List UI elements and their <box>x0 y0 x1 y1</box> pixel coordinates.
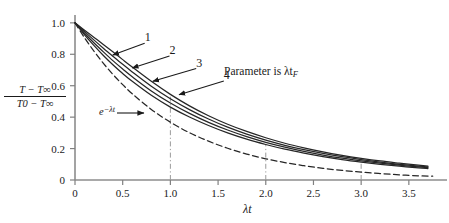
x-tick-label-1: 0.5 <box>108 188 138 199</box>
callout-line-4 <box>179 81 224 95</box>
x-tick-label-7: 3.5 <box>394 188 424 199</box>
y-tick-label-0: 0 <box>39 175 65 186</box>
data-curves <box>75 23 433 176</box>
curve-label-2: 2 <box>169 44 175 56</box>
curve-1 <box>75 23 428 166</box>
exp-curve-label: e−λt <box>99 106 115 118</box>
curve-4 <box>75 23 428 169</box>
x-axis-title: λt <box>243 203 252 215</box>
callout-line-3 <box>153 69 196 82</box>
x-tick-label-2: 1.0 <box>155 188 185 199</box>
callout-line-2 <box>132 56 169 68</box>
parameter-annotation: Parameter is λtF <box>224 66 298 79</box>
curve-label-3: 3 <box>196 57 202 69</box>
x-tick-label-0: 0 <box>60 188 90 199</box>
parameter-annotation-subscript: F <box>293 69 298 79</box>
curve-exp <box>75 23 433 176</box>
y-tick-label-2: 0.4 <box>39 112 65 123</box>
y-tick-label-5: 1.0 <box>39 18 65 29</box>
y-axis-title-denominator: T0 − T∞ <box>4 97 66 109</box>
curve-label-1: 1 <box>145 31 151 43</box>
curve-2 <box>75 23 428 167</box>
x-tick-label-6: 3.0 <box>346 188 376 199</box>
callout-line-1 <box>113 43 145 55</box>
curve-3 <box>75 23 428 168</box>
x-tick-label-5: 2.5 <box>298 188 328 199</box>
figure-container: T − T∞ T0 − T∞ λt 00.20.40.60.81.0 00.51… <box>0 0 449 223</box>
y-tick-label-4: 0.8 <box>39 49 65 60</box>
y-tick-label-3: 0.6 <box>39 81 65 92</box>
exp-curve-label-exponent: −λt <box>104 105 115 114</box>
parameter-annotation-text: Parameter is λt <box>224 65 293 77</box>
x-tick-label-3: 1.5 <box>203 188 233 199</box>
axes <box>75 15 447 180</box>
y-tick-label-1: 0.2 <box>39 144 65 155</box>
x-tick-label-4: 2.0 <box>251 188 281 199</box>
